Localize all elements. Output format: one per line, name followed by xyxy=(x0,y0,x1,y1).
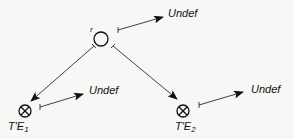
right-undef-arrow: Undef xyxy=(199,83,281,108)
edge-to-left-node xyxy=(31,44,96,101)
top-undef-label: Undef xyxy=(168,7,198,19)
right-node: T'E2 xyxy=(175,105,196,134)
left-node-label: T'E1 xyxy=(8,120,29,134)
circle-times-icon xyxy=(177,105,189,117)
top-undef-arrow: Undef xyxy=(118,7,198,33)
top-node: r xyxy=(90,25,108,46)
right-undef-label: Undef xyxy=(251,83,281,95)
circle-icon xyxy=(94,32,108,46)
diagram-canvas: r Undef T'E1 Undef T'E xyxy=(0,0,294,139)
left-undef-label: Undef xyxy=(89,84,119,96)
left-undef-arrow: Undef xyxy=(40,84,119,110)
top-node-label: r xyxy=(90,25,93,34)
left-node: T'E1 xyxy=(8,105,31,134)
right-node-label: T'E2 xyxy=(175,120,196,134)
circle-times-icon xyxy=(19,105,31,117)
diagram-svg: r Undef T'E1 Undef T'E xyxy=(0,0,294,139)
edge-to-right-node xyxy=(111,44,177,99)
